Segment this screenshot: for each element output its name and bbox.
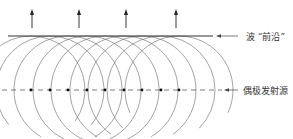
wavefront-diagram [0,0,293,139]
up-arrow-icon [174,9,178,28]
wave-arc [51,36,159,139]
wave-arc [14,36,122,137]
wavefront-label: 波 “前沿” [246,30,285,43]
sources-pointer-arrow-icon [224,88,238,91]
dipole-source-dot [49,89,52,92]
dipole-source-dot [30,89,33,92]
wave-arc [125,36,233,113]
dipole-source-dot [123,89,126,92]
propagation-arrows [30,9,178,28]
up-arrow-icon [30,9,34,28]
up-arrow-icon [77,9,81,28]
wave-arcs [0,36,233,139]
wave-arc [70,36,178,137]
dipole-source-dot [160,89,163,92]
dipole-source-dot [104,89,107,92]
dipole-source-dot [67,89,70,92]
dipole-source-dot [86,89,89,92]
dipole-source-dot [141,89,144,92]
wavefront-pointer-arrow-icon [216,34,238,37]
dipole-sources-label: 偶极发射源 [243,84,288,97]
up-arrow-icon [124,9,128,28]
dipole-source-dot [178,89,181,92]
wave-arc [0,36,85,121]
